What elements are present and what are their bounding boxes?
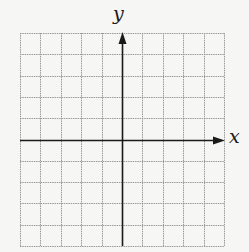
y-axis-label: y (113, 4, 124, 23)
coordinate-plane (0, 0, 249, 252)
x-axis-arrow-icon (213, 137, 225, 145)
axes (20, 32, 225, 246)
x-axis-label: x (229, 127, 240, 146)
